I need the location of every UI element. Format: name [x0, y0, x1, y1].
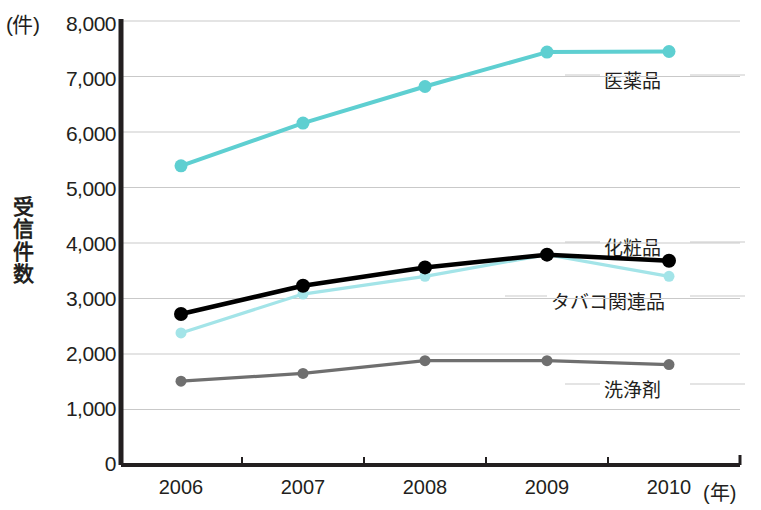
- series-data-point: [174, 307, 188, 321]
- series-data-point: [542, 355, 553, 366]
- series-data-point: [664, 359, 675, 370]
- series-data-point: [418, 260, 432, 274]
- series-data-point: [541, 46, 554, 59]
- series-line: [181, 52, 669, 166]
- series-data-point: [298, 368, 309, 379]
- series-data-point: [297, 117, 310, 130]
- series-data-point: [176, 327, 187, 338]
- series-data-point: [420, 355, 431, 366]
- series-data-point: [540, 248, 554, 262]
- series-data-point: [176, 376, 187, 387]
- series-data-point: [663, 45, 676, 58]
- series-data-point: [662, 254, 676, 268]
- line-chart: (件) (年) 受 信 件 数 0 1,000 2,000 3,000 4,00…: [0, 0, 761, 510]
- plot-area: [0, 0, 761, 510]
- series-data-point: [664, 271, 675, 282]
- series-data-point: [175, 159, 188, 172]
- series-data-point: [296, 279, 310, 293]
- series-data-point: [419, 80, 432, 93]
